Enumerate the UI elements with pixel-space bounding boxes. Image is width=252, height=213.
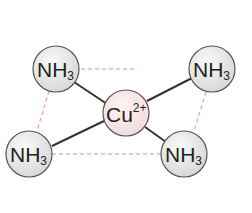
bond-bottom-right	[145, 127, 166, 142]
ligand-bottom-left: NH3	[6, 131, 52, 177]
ligand-bottom-right: NH3	[161, 131, 207, 177]
bond-bottom-left	[52, 121, 104, 146]
bond-top-left	[74, 82, 107, 104]
bond-top-right	[147, 77, 194, 101]
diagram-svg: NH3 NH3 NH3 NH3 Cu2+	[0, 0, 252, 213]
central-ion: Cu2+	[103, 90, 149, 136]
ligand-top-left: NH3	[33, 46, 79, 92]
complex-diagram: NH3 NH3 NH3 NH3 Cu2+	[0, 0, 252, 213]
dashed-right	[194, 92, 206, 131]
ligand-top-right: NH3	[189, 46, 235, 92]
dashed-left	[37, 91, 49, 131]
